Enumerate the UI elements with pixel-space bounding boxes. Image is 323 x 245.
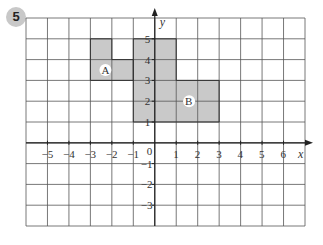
y-axis-label: y bbox=[159, 15, 166, 29]
shape-label-a: A bbox=[101, 64, 109, 76]
x-tick-label: −3 bbox=[84, 148, 96, 160]
y-tick-label: 5 bbox=[145, 33, 151, 45]
x-tick-label: 4 bbox=[238, 148, 244, 160]
x-tick-label: −2 bbox=[106, 148, 118, 160]
y-tick-label: 1 bbox=[145, 116, 151, 128]
y-tick-label: −1 bbox=[141, 158, 153, 170]
shape-label-b: B bbox=[185, 95, 192, 107]
y-tick-label: 2 bbox=[145, 95, 151, 107]
x-tick-label: 1 bbox=[173, 148, 179, 160]
y-tick-label: −2 bbox=[141, 178, 153, 190]
x-axis-label: x bbox=[297, 147, 304, 161]
y-tick-label: −3 bbox=[141, 199, 153, 211]
x-tick-label: −4 bbox=[63, 148, 75, 160]
coordinate-grid: xy−5−4−3−2−112345654321−1−2−30AB bbox=[0, 0, 323, 245]
x-tick-label: 3 bbox=[216, 148, 222, 160]
x-axis-arrow-icon bbox=[305, 140, 313, 146]
x-tick-label: −5 bbox=[41, 148, 53, 160]
y-tick-label: 3 bbox=[145, 74, 151, 86]
x-tick-label: 2 bbox=[195, 148, 201, 160]
y-tick-label: 4 bbox=[145, 54, 151, 66]
y-axis-arrow-icon bbox=[152, 8, 158, 16]
origin-label: 0 bbox=[147, 145, 153, 157]
x-tick-label: 5 bbox=[259, 148, 265, 160]
x-tick-label: −1 bbox=[127, 148, 139, 160]
x-tick-label: 6 bbox=[281, 148, 287, 160]
